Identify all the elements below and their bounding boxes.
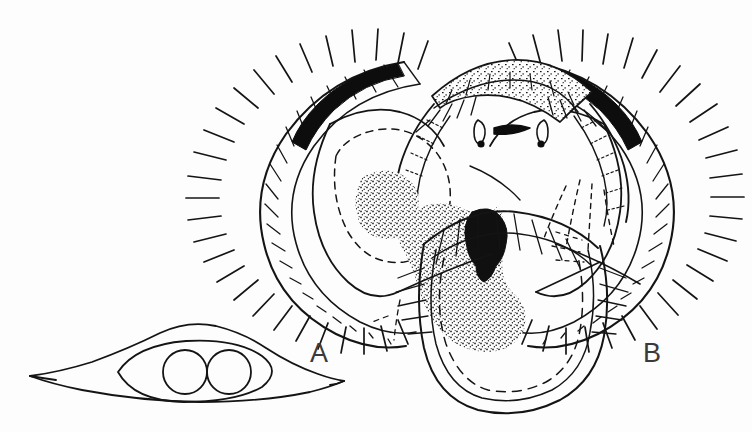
right-papilla-dot <box>537 140 544 147</box>
figure-artwork <box>0 0 752 432</box>
illustration-plate: A B <box>0 0 752 432</box>
left-papilla-dot <box>477 140 484 147</box>
left-dashed-accents <box>372 300 400 340</box>
median-arch-stipple <box>432 60 592 122</box>
central-stipple-mass <box>398 203 525 352</box>
figure-a-circle-right <box>207 350 251 394</box>
right-dashed-fan <box>544 180 614 250</box>
figure-a-label: A <box>310 338 329 369</box>
figure-b-label: B <box>643 338 662 369</box>
median-black-bar <box>494 125 530 134</box>
figure-a-circle-left <box>163 350 207 394</box>
left-papilla <box>474 120 485 144</box>
right-papilla <box>537 120 548 144</box>
figure-a-group <box>30 324 344 402</box>
